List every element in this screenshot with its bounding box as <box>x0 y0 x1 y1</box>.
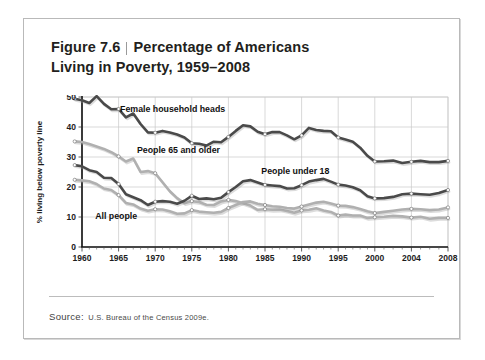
x-tick-label: 1965 <box>109 253 128 263</box>
data-point <box>190 209 193 212</box>
data-point <box>227 135 230 138</box>
x-tick-label: 1990 <box>292 253 311 263</box>
source-line: Source: U.S. Bureau of the Census 2009e. <box>49 306 209 324</box>
title-divider <box>126 42 127 55</box>
figure-header: Figure 7.6Percentage of Americans Living… <box>51 37 411 77</box>
y-tick-label: 10 <box>67 212 77 222</box>
figure-card: Figure 7.6Percentage of Americans Living… <box>23 18 460 339</box>
data-point <box>154 131 157 134</box>
x-tick-label: 1960 <box>73 253 92 263</box>
source-text: U.S. Bureau of the Census 2009e. <box>88 313 209 322</box>
data-point <box>373 216 376 219</box>
y-tick-label: 20 <box>67 182 77 192</box>
y-axis-title: % living below poverty line <box>35 120 44 223</box>
figure-title-part-1: Percentage of Americans <box>134 39 310 55</box>
data-point <box>373 160 376 163</box>
figure-title-line-2: Living in Poverty, 1959–2008 <box>51 57 411 77</box>
figure-title-line-1: Figure 7.6Percentage of Americans <box>51 37 411 57</box>
data-series <box>75 96 449 220</box>
chart-plot-area: 01020304050 1960196519701975198019851990… <box>24 95 461 285</box>
data-point <box>337 183 340 186</box>
data-point <box>117 194 120 197</box>
source-label: Source: <box>49 311 84 322</box>
data-point <box>154 208 157 211</box>
data-point <box>227 198 230 201</box>
x-tick-label: 1970 <box>146 253 165 263</box>
data-point <box>263 183 266 186</box>
data-point <box>300 184 303 187</box>
data-point <box>263 203 266 206</box>
data-point <box>446 159 449 162</box>
data-point <box>263 208 266 211</box>
data-point <box>117 155 120 158</box>
series-label-0: Female household heads <box>120 104 225 114</box>
data-point <box>410 207 413 210</box>
x-tick-label: 1995 <box>329 253 348 263</box>
data-point <box>410 160 413 163</box>
data-point <box>117 182 120 185</box>
data-point <box>337 204 340 207</box>
data-point <box>300 134 303 137</box>
x-axis-tick-labels: 1960196519701975198019851990199520002004… <box>73 253 458 263</box>
data-point <box>410 216 413 219</box>
x-tick-label: 2004 <box>402 253 421 263</box>
figure-number: Figure 7.6 <box>51 39 121 55</box>
data-point <box>154 200 157 203</box>
series-label-1: People 65 and older <box>137 145 221 155</box>
data-point <box>190 200 193 203</box>
data-point <box>446 216 449 219</box>
data-point <box>190 194 193 197</box>
data-point <box>337 136 340 139</box>
data-point <box>73 140 76 143</box>
y-axis-tick-labels: 01020304050 <box>67 95 77 252</box>
data-point <box>410 192 413 195</box>
x-tick-label: 1985 <box>256 253 275 263</box>
data-point <box>300 209 303 212</box>
data-point <box>227 191 230 194</box>
data-point <box>446 206 449 209</box>
series-label-3: All people <box>95 211 137 221</box>
data-point <box>337 214 340 217</box>
x-tick-label: 2000 <box>365 253 384 263</box>
data-point <box>227 206 230 209</box>
series-line-1 <box>75 141 448 218</box>
x-tick-label: 1975 <box>182 253 201 263</box>
y-axis-title-text: % living below poverty line <box>35 120 44 223</box>
y-tick-label: 0 <box>71 242 76 252</box>
poverty-line-chart: 01020304050 1960196519701975198019851990… <box>24 95 461 285</box>
x-tick-label: 1980 <box>219 253 238 263</box>
y-tick-label: 50 <box>67 95 77 102</box>
source-divider <box>49 296 434 297</box>
y-tick-label: 40 <box>67 122 77 132</box>
data-point <box>73 164 76 167</box>
y-tick-label: 30 <box>67 152 77 162</box>
data-point <box>373 197 376 200</box>
data-point <box>73 178 76 181</box>
data-point <box>154 172 157 175</box>
x-tick-label: 2008 <box>439 253 458 263</box>
data-point <box>263 133 266 136</box>
data-point <box>446 188 449 191</box>
series-label-2: People under 18 <box>261 166 329 176</box>
data-point <box>373 212 376 215</box>
data-point <box>300 205 303 208</box>
